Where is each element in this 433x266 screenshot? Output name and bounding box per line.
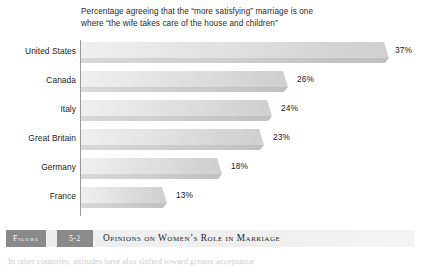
bar-value-label: 18% <box>231 161 248 171</box>
category-label: France <box>50 191 76 201</box>
bar-value-label: 37% <box>395 45 412 55</box>
bar-base-edge <box>81 203 167 208</box>
bar-value-label: 24% <box>281 103 298 113</box>
chart-title-line-2: where “the wife takes care of the house … <box>81 18 381 30</box>
figure-badge-label: Figure <box>6 230 46 247</box>
category-label: Italy <box>60 104 76 114</box>
chart-title-line-1: Percentage agreeing that the “more satis… <box>81 6 381 18</box>
bar-base-edge <box>81 87 288 92</box>
bar-row: France 13% <box>0 183 433 212</box>
bar-face <box>81 187 167 203</box>
bar-value-label: 23% <box>273 132 290 142</box>
figure-number-badge: 5-2 <box>57 230 93 247</box>
category-label: Germany <box>41 162 76 172</box>
bar-row: Canada 26% <box>0 67 433 96</box>
bar-base-edge <box>81 58 389 63</box>
bar-face <box>81 129 264 145</box>
chart-title: Percentage agreeing that the “more satis… <box>81 6 381 29</box>
category-label: Great Britain <box>28 133 76 143</box>
bar-canada <box>81 71 288 92</box>
bar-united-states <box>81 42 389 63</box>
bar-face <box>81 100 272 116</box>
bar-base-edge <box>81 145 264 150</box>
bar-value-label: 13% <box>176 190 193 200</box>
bar-face <box>81 158 222 174</box>
bar-base-edge <box>81 116 272 121</box>
bar-great-britain <box>81 129 264 150</box>
bar-italy <box>81 100 272 121</box>
bar-germany <box>81 158 222 179</box>
category-label: Canada <box>46 75 76 85</box>
bar-base-edge <box>81 174 222 179</box>
bar-france <box>81 187 167 208</box>
bar-face <box>81 71 288 87</box>
bar-row: United States 37% <box>0 38 433 67</box>
bar-row: Germany 18% <box>0 154 433 183</box>
bar-chart-plot-area: United States 37% Canada 26% Italy 24% G… <box>0 38 433 218</box>
bar-row: Italy 24% <box>0 96 433 125</box>
category-label: United States <box>25 46 76 56</box>
bar-value-label: 26% <box>297 74 314 84</box>
bar-face <box>81 42 389 58</box>
clipped-body-text: In other countries, attitudes have also … <box>8 256 425 266</box>
figure-caption-title: Opinions on Women’s Role in Marriage <box>103 230 280 247</box>
bar-row: Great Britain 23% <box>0 125 433 154</box>
